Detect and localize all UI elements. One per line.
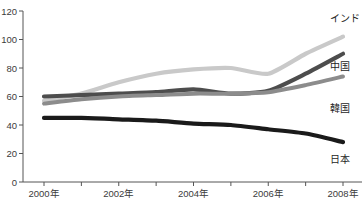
- x-tick-label: 2006年: [253, 188, 284, 199]
- line-chart: 020406080100120 2000年2002年2004年2006年2008…: [0, 0, 362, 204]
- series-label-インド: インド: [330, 13, 360, 24]
- y-tick-label: 20: [6, 148, 17, 159]
- x-tick-label: 2000年: [28, 188, 59, 199]
- x-axis: 2000年2002年2004年2006年2008年: [23, 182, 362, 199]
- series-lines: [44, 37, 343, 142]
- y-tick-label: 100: [1, 34, 17, 45]
- y-tick-label: 80: [6, 63, 17, 74]
- series-label-韓国: 韓国: [330, 103, 350, 114]
- y-axis: 020406080100120: [1, 6, 23, 188]
- series-label-日本: 日本: [330, 153, 350, 165]
- x-tick-label: 2004年: [178, 188, 209, 199]
- chart-svg: 020406080100120 2000年2002年2004年2006年2008…: [0, 0, 362, 204]
- y-tick-label: 0: [12, 177, 17, 188]
- x-tick-label: 2002年: [103, 188, 134, 199]
- series-label-中国: 中国: [330, 60, 350, 72]
- y-tick-label: 120: [1, 6, 17, 17]
- y-tick-label: 40: [6, 120, 17, 131]
- x-tick-label: 2008年: [327, 188, 358, 199]
- y-tick-label: 60: [6, 91, 17, 102]
- series-line-日本: [44, 118, 343, 142]
